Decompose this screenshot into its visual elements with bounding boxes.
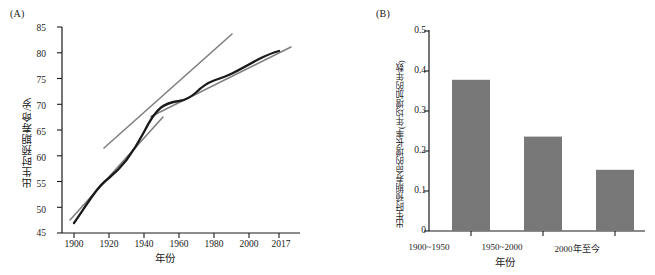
- panel-a-y-ticks: [57, 27, 62, 233]
- panel-a-plot: [0, 0, 340, 275]
- panel-a-x-ticks: [74, 233, 279, 238]
- panel-b-bar-2[interactable]: [596, 170, 634, 231]
- panel-a: (A) 出生时预期寿命/岁 年份 85 80 75 70 65 60 55 50…: [0, 0, 340, 275]
- figure-container: (A) 出生时预期寿命/岁 年份 85 80 75 70 65 60 55 50…: [0, 0, 655, 275]
- panel-a-life-expectancy-curve: [74, 51, 279, 223]
- panel-b-plot: [340, 0, 655, 275]
- panel-b-bar-1[interactable]: [524, 137, 562, 231]
- panel-b: (B) 出生时预期寿命的增长率(年均增加的年数) 年份 0.5 0.4 0.3 …: [340, 0, 655, 275]
- trend-line-2000-now: [151, 47, 291, 117]
- trend-line-mid: [104, 34, 232, 148]
- panel-a-trend-lines: [70, 34, 291, 220]
- panel-b-bar-0[interactable]: [452, 80, 490, 231]
- panel-b-y-ticks: [424, 31, 429, 231]
- panel-b-x-ticks: [471, 231, 615, 236]
- trend-line-1900-1950: [70, 117, 163, 220]
